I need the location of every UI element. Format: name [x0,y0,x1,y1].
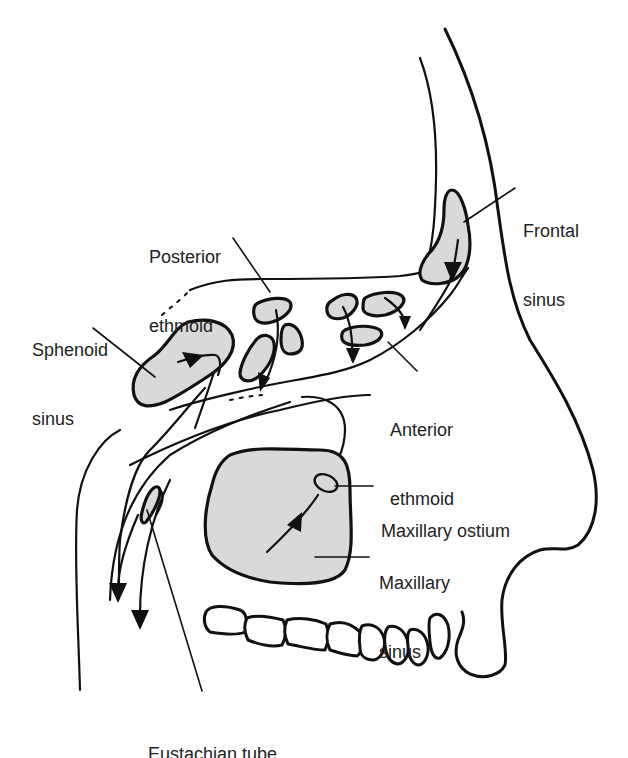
drainage-descending-arrowhead-2 [131,610,149,630]
anterior-ethmoid-arrowhead-1 [346,348,360,364]
label-eustachian-tube-orifice-line1: Eustachian tube [148,743,277,758]
frontal-duct-line [420,282,450,330]
anterior-ethmoid-arrowhead-2 [399,316,411,330]
tooth-2 [245,616,286,646]
label-sphenoid-sinus-line1: Sphenoid [32,339,108,362]
label-maxillary-sinus: Maxillary sinus [379,526,450,687]
label-posterior-ethmoid-line1: Posterior [149,246,221,269]
forehead-inner-line [420,58,436,260]
label-frontal-sinus-line1: Frontal [523,220,579,243]
frontal-sinus-shape [420,190,470,284]
label-sphenoid-sinus-line2: sinus [32,408,108,431]
label-posterior-ethmoid-line2: ethmoid [149,315,221,338]
maxillary-sinus-shape [205,449,351,584]
drainage-descending-arrowhead-1 [109,583,127,603]
label-frontal-sinus: Frontal sinus [523,174,579,335]
label-frontal-sinus-line2: sinus [523,289,579,312]
label-maxillary-sinus-line2: sinus [379,641,450,664]
anterior-ethmoid-cell-1 [327,294,357,318]
leader-frontal-sinus [464,188,515,222]
label-maxillary-sinus-line1: Maxillary [379,572,450,595]
label-eustachian-tube-orifice: Eustachian tube orifice [148,697,277,758]
label-anterior-ethmoid-line1: Anterior [390,419,454,442]
tooth-4 [327,622,362,656]
leader-anterior-ethmoid [388,342,417,371]
sphenoid-dotted [230,395,262,400]
tooth-1 [204,606,246,634]
label-posterior-ethmoid: Posterior ethmoid [149,200,221,361]
leader-eustachian-tube-orifice [147,510,202,691]
tooth-3 [285,619,328,650]
leader-posterior-ethmoid [233,238,270,292]
anterior-ethmoid-cell-2 [363,292,404,315]
anterior-ethmoid-cell-3 [342,326,382,345]
posterior-ethmoid-cell-3 [281,324,302,354]
skull-base-line [190,268,440,290]
face-profile-outline [445,29,596,677]
eustachian-tube-orifice-shape [141,487,160,523]
label-sphenoid-sinus: Sphenoid sinus [32,293,108,454]
posterior-ethmoid-cell-1 [254,298,291,323]
